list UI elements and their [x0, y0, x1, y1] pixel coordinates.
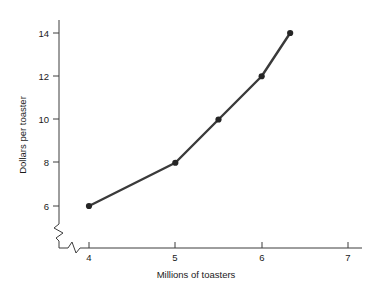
line-chart-canvas: 14 12 10 8 6 Dollars per toaster 4 5 6 7… [0, 0, 382, 291]
data-point-marker [287, 30, 293, 36]
y-tick-label-6: 6 [44, 201, 49, 212]
y-axis-title: Dollars per toaster [17, 96, 28, 174]
data-point-marker [259, 73, 265, 79]
y-tick-label-14: 14 [38, 28, 49, 39]
data-point-marker [172, 160, 178, 166]
x-tick-label-7: 7 [345, 252, 350, 263]
x-tick-label-6: 6 [259, 252, 264, 263]
y-tick-label-10: 10 [38, 114, 49, 125]
y-tick-label-8: 8 [44, 157, 49, 168]
x-tick-label-5: 5 [172, 252, 177, 263]
data-point-marker [215, 116, 221, 122]
data-point-marker [86, 203, 92, 209]
y-tick-label-12: 12 [38, 71, 49, 82]
x-axis-title: Millions of toasters [157, 269, 236, 280]
chart-figure: 14 12 10 8 6 Dollars per toaster 4 5 6 7… [0, 0, 382, 291]
x-tick-label-4: 4 [86, 252, 91, 263]
